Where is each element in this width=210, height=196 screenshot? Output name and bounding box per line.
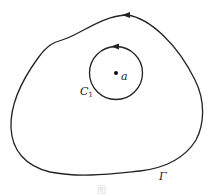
center-point-dot <box>114 71 118 75</box>
outer-contour-label: Γ <box>158 170 167 183</box>
outer-contour-gamma <box>11 15 203 175</box>
inner-circle-label: C1 <box>80 85 93 99</box>
figure-caption: 图 <box>97 185 106 195</box>
outer-arrow-icon <box>122 12 130 18</box>
center-point-label: a <box>121 70 128 83</box>
contour-diagram: a C1 Γ 图 <box>0 0 210 196</box>
inner-arrow-icon <box>111 44 119 50</box>
